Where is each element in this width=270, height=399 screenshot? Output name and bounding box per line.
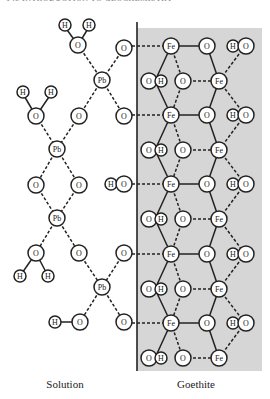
svg-text:O: O [204, 180, 210, 189]
svg-text:Fe: Fe [215, 285, 223, 294]
atom-o: O [238, 176, 254, 192]
atom-fe: Fe [211, 73, 227, 89]
svg-text:H: H [230, 180, 236, 189]
atom-o: O [199, 176, 215, 192]
svg-text:H: H [48, 88, 54, 97]
svg-text:O: O [180, 215, 186, 224]
atom-o: O [116, 176, 132, 192]
svg-text:Pb: Pb [53, 214, 61, 223]
svg-text:Fe: Fe [167, 319, 175, 328]
atom-h: H [42, 270, 54, 282]
atom-o: O [175, 211, 191, 227]
svg-text:O: O [180, 285, 186, 294]
atom-o: O [116, 314, 132, 330]
atom-h: H [49, 316, 61, 328]
svg-text:O: O [33, 181, 39, 190]
svg-text:Fe: Fe [215, 146, 223, 155]
svg-text:O: O [121, 180, 127, 189]
svg-text:O: O [146, 146, 152, 155]
atom-h: H [155, 213, 167, 225]
atom-pb: Pb [94, 279, 110, 295]
atom-h: H [59, 19, 71, 31]
svg-text:H: H [158, 354, 164, 363]
svg-text:H: H [230, 319, 236, 328]
svg-text:Pb: Pb [98, 76, 106, 85]
atom-o: O [175, 73, 191, 89]
atom-pb: Pb [49, 141, 65, 157]
atom-o: O [199, 107, 215, 123]
atom-o: O [116, 40, 132, 56]
goethite-label: Goethite [177, 378, 215, 390]
svg-text:O: O [76, 249, 82, 258]
atom-fe: Fe [211, 350, 227, 366]
atom-o: O [238, 246, 254, 262]
atom-o: O [238, 38, 254, 54]
atom-fe: Fe [163, 315, 179, 331]
svg-text:H: H [230, 42, 236, 51]
svg-text:O: O [204, 111, 210, 120]
svg-text:O: O [76, 112, 82, 121]
svg-text:H: H [158, 215, 164, 224]
svg-text:O: O [146, 77, 152, 86]
svg-text:O: O [121, 112, 127, 121]
svg-text:O: O [243, 42, 249, 51]
svg-text:Fe: Fe [215, 77, 223, 86]
svg-text:O: O [121, 318, 127, 327]
svg-text:O: O [33, 112, 39, 121]
svg-text:O: O [77, 318, 83, 327]
atom-h: H [155, 283, 167, 295]
atom-h: H [45, 86, 57, 98]
atom-fe: Fe [163, 246, 179, 262]
svg-text:H: H [20, 88, 26, 97]
svg-text:Fe: Fe [167, 42, 175, 51]
atom-h: H [227, 109, 239, 121]
atom-o: O [70, 37, 86, 53]
adsorption-diagram: HHOPbOHHOPbOOPbOOHHPbOHOOOOHOFeOHOOHOFeF… [0, 0, 270, 399]
svg-text:O: O [75, 41, 81, 50]
atom-o: O [71, 177, 87, 193]
atom-pb: Pb [94, 72, 110, 88]
svg-text:H: H [17, 272, 23, 281]
atom-h: H [155, 75, 167, 87]
atom-h: H [227, 40, 239, 52]
svg-text:H: H [108, 180, 114, 189]
svg-text:O: O [146, 215, 152, 224]
svg-text:O: O [76, 181, 82, 190]
atom-fe: Fe [163, 38, 179, 54]
atom-h: H [227, 317, 239, 329]
svg-text:H: H [158, 77, 164, 86]
svg-text:H: H [158, 285, 164, 294]
svg-text:O: O [121, 44, 127, 53]
atom-o: O [238, 315, 254, 331]
atom-fe: Fe [163, 107, 179, 123]
atom-o: O [175, 350, 191, 366]
atom-o: O [175, 142, 191, 158]
svg-text:Fe: Fe [215, 354, 223, 363]
svg-text:O: O [180, 146, 186, 155]
atom-o: O [28, 177, 44, 193]
svg-text:H: H [230, 111, 236, 120]
atom-h: H [83, 19, 95, 31]
svg-text:H: H [45, 272, 51, 281]
atom-o: O [199, 246, 215, 262]
atom-fe: Fe [211, 211, 227, 227]
svg-text:Fe: Fe [167, 250, 175, 259]
atom-h: H [227, 178, 239, 190]
solution-label: Solution [46, 378, 83, 390]
svg-text:O: O [243, 180, 249, 189]
svg-text:Pb: Pb [53, 145, 61, 154]
atom-h: H [17, 86, 29, 98]
atom-fe: Fe [211, 142, 227, 158]
svg-text:O: O [121, 249, 127, 258]
atom-pb: Pb [49, 210, 65, 226]
svg-text:O: O [243, 111, 249, 120]
svg-text:O: O [146, 285, 152, 294]
svg-text:H: H [86, 21, 92, 30]
atom-o: O [28, 245, 44, 261]
atom-o: O [199, 38, 215, 54]
svg-text:Fe: Fe [167, 180, 175, 189]
svg-text:H: H [52, 318, 58, 327]
atom-o: O [175, 281, 191, 297]
atom-o: O [199, 315, 215, 331]
svg-text:O: O [243, 250, 249, 259]
